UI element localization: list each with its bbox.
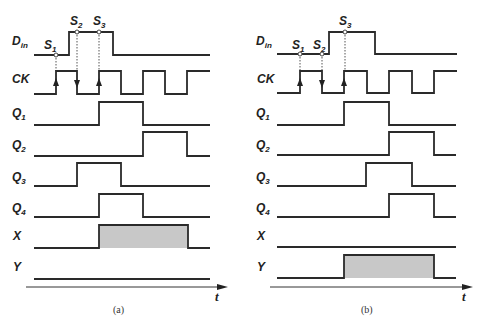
rising-edge-arrow-icon <box>53 78 59 86</box>
falling-edge-arrow-icon <box>319 80 325 88</box>
sample-point-s2 <box>320 52 324 56</box>
waveform-q1 <box>277 102 456 125</box>
label-q3: Q3 <box>12 170 26 186</box>
time-axis-label: t <box>462 289 466 304</box>
label-din: Din <box>12 34 28 50</box>
y-pulse-shaded <box>344 255 434 278</box>
sample-point-s3 <box>97 30 101 34</box>
rising-edge-arrow-icon <box>96 78 102 86</box>
waveform-q4 <box>277 194 456 217</box>
rising-edge-arrow-icon <box>297 78 303 86</box>
axis-arrow-icon <box>217 284 228 290</box>
waveform-q3 <box>34 163 210 186</box>
label-q1: Q1 <box>12 106 26 122</box>
label-ck: CK <box>12 72 31 86</box>
label-q2: Q2 <box>256 138 270 154</box>
panel-b: Din CK Q1 Q2 Q3 Q4 X Y S1 S2 S3 <box>256 14 473 316</box>
waveform-q2 <box>34 132 210 156</box>
waveform-ck <box>34 71 210 94</box>
rising-edge-arrow-icon <box>341 78 347 86</box>
x-pulse-shaded <box>99 225 188 248</box>
sample-point-s2 <box>75 30 79 34</box>
waveform-din <box>34 32 210 55</box>
label-q3: Q3 <box>256 170 270 186</box>
timing-diagram-figure: Din CK Q1 Q2 Q3 Q4 X Y S1 S2 S3 <box>0 0 479 323</box>
waveform-q4 <box>34 194 210 217</box>
label-y: Y <box>257 260 266 274</box>
label-x: X <box>256 229 266 243</box>
label-x: X <box>12 229 22 243</box>
label-s1: S1 <box>44 38 57 54</box>
waveform-ck <box>277 71 457 93</box>
sample-point-s3 <box>343 30 347 34</box>
label-y: Y <box>13 260 22 274</box>
panel-a: Din CK Q1 Q2 Q3 Q4 X Y S1 S2 S3 <box>12 14 228 316</box>
sample-point-s1 <box>54 53 58 57</box>
waveform-q2 <box>277 132 456 155</box>
falling-edge-arrow-icon <box>74 80 80 88</box>
caption-a: (a) <box>113 304 124 316</box>
time-axis-label: t <box>215 289 219 304</box>
waveform-q1 <box>34 102 210 125</box>
label-q1: Q1 <box>256 106 270 122</box>
label-s2: S2 <box>70 14 83 30</box>
label-s1: S1 <box>292 38 305 54</box>
label-din: Din <box>256 34 272 50</box>
label-ck: CK <box>257 72 276 86</box>
label-s3: S3 <box>339 14 352 30</box>
sample-point-s1 <box>298 52 302 56</box>
label-q4: Q4 <box>256 201 270 217</box>
label-s2: S2 <box>313 38 326 54</box>
label-q4: Q4 <box>12 201 26 217</box>
waveform-q3 <box>277 163 456 186</box>
label-q2: Q2 <box>12 138 26 154</box>
label-s3: S3 <box>93 14 106 30</box>
caption-b: (b) <box>361 304 373 316</box>
